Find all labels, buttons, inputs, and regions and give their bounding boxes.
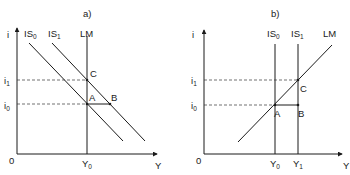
panel-a: a) i Y 0 IS0 IS1 LM C A B i1 i0 Y0: [4, 8, 162, 171]
y0-label: Y0: [82, 158, 92, 170]
point-b-label: B: [298, 108, 304, 119]
panel-b-title: b): [271, 8, 279, 19]
i1-label: i1: [191, 75, 197, 87]
point-c: [297, 79, 300, 82]
i0-label: i0: [191, 100, 197, 112]
point-a: [274, 104, 277, 107]
x-axis-label: Y: [155, 160, 162, 171]
is1-label: IS1: [291, 28, 304, 40]
is1-label: IS1: [48, 28, 61, 40]
x-axis-label: Y: [343, 160, 350, 171]
panel-a-title: a): [83, 8, 91, 19]
origin-label: 0: [196, 155, 201, 166]
is1-curve: [52, 43, 145, 141]
y-axis-label: i: [7, 29, 9, 40]
i0-label: i0: [4, 100, 10, 112]
is-lm-diagram: a) i Y 0 IS0 IS1 LM C A B i1 i0 Y0 b): [0, 0, 350, 175]
i1-label: i1: [4, 75, 10, 87]
is0-curve: [29, 43, 123, 141]
y0-label: Y0: [270, 158, 280, 170]
is0-label: IS0: [267, 28, 280, 40]
point-b: [297, 104, 300, 107]
point-b-label: B: [111, 92, 117, 103]
point-c-label: C: [90, 68, 97, 79]
y-axis-label: i: [192, 29, 194, 40]
point-c-label: C: [300, 83, 307, 94]
origin-label: 0: [9, 155, 14, 166]
point-c: [86, 79, 89, 82]
lm-label: LM: [80, 28, 93, 39]
point-a-label: A: [89, 92, 96, 103]
point-a: [86, 103, 89, 106]
y1-label: Y1: [293, 158, 303, 170]
point-a-label: A: [274, 108, 281, 119]
point-b: [109, 103, 112, 106]
panel-b: b) i Y 0 IS0 IS1 LM C A B i1 i0 Y0 Y1: [191, 8, 350, 171]
lm-label: LM: [323, 28, 336, 39]
is0-label: IS0: [24, 28, 37, 40]
lm-curve: [238, 45, 332, 142]
